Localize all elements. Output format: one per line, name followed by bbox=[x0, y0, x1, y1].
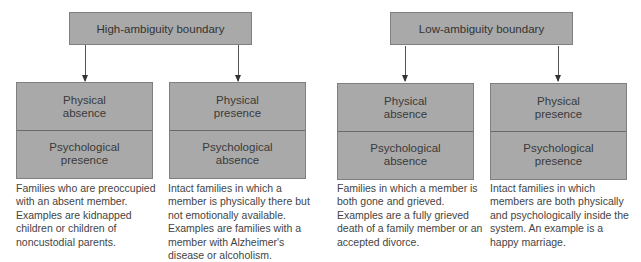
psychological-label: Psychological absence bbox=[338, 131, 473, 179]
low-ambiguity-box-2: Physical presence Psychological presence bbox=[490, 83, 627, 180]
high-ambiguity-header: High-ambiguity boundary bbox=[69, 12, 252, 45]
high-ambiguity-box-2: Physical presence Psychological absence bbox=[169, 82, 306, 179]
description-text: Families who are preoccupied with an abs… bbox=[16, 182, 162, 249]
arrow-down-icon bbox=[238, 45, 239, 81]
physical-label: Physical presence bbox=[491, 84, 626, 132]
physical-label: Physical absence bbox=[338, 84, 473, 132]
psychological-label: Psychological presence bbox=[17, 130, 152, 178]
physical-label: Physical presence bbox=[170, 83, 305, 131]
arrow-down-icon bbox=[558, 46, 559, 81]
physical-label: Physical absence bbox=[17, 83, 152, 131]
description-text: Families in which a member is both gone … bbox=[337, 182, 483, 249]
description-text: Intact families in which a member is phy… bbox=[168, 182, 310, 262]
low-ambiguity-header: Low-ambiguity boundary bbox=[390, 12, 573, 45]
arrow-down-icon bbox=[405, 46, 406, 81]
description-text: Intact families in which members are bot… bbox=[490, 182, 632, 249]
psychological-label: Psychological presence bbox=[491, 131, 626, 179]
arrow-down-icon bbox=[85, 45, 86, 81]
high-ambiguity-box-1: Physical absence Psychological presence bbox=[16, 82, 153, 179]
low-ambiguity-box-1: Physical absence Psychological absence bbox=[337, 83, 474, 180]
psychological-label: Psychological absence bbox=[170, 130, 305, 178]
